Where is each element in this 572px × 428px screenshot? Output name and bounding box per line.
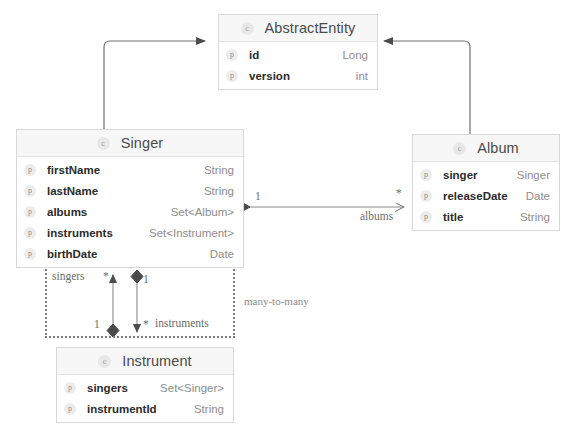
role-label-albums: albums <box>360 210 393 222</box>
attribute-name: id <box>249 49 259 61</box>
property-badge-icon: p <box>420 169 432 181</box>
attribute-type: Set<Singer> <box>150 382 224 394</box>
attribute-type: Set<Album> <box>161 206 234 218</box>
attribute-name: albums <box>47 206 87 218</box>
class-attributes-album: p singer Singer p releaseDate Date p tit… <box>413 162 559 230</box>
class-box-instrument[interactable]: c Instrument p singers Set<Singer> p ins… <box>56 347 234 423</box>
attribute-name: instrumentId <box>87 403 157 415</box>
attribute-name: birthDate <box>47 248 97 260</box>
property-badge-icon: p <box>24 185 36 197</box>
multiplicity-singers-one: 1 <box>94 318 100 330</box>
multiplicity-singer-albums-target: * <box>396 187 402 199</box>
attribute-row[interactable]: p singer Singer <box>413 164 559 185</box>
class-header-abstractentity: c AbstractEntity <box>219 15 377 42</box>
multiplicity-singer-albums-source: 1 <box>255 190 261 202</box>
property-badge-icon: p <box>226 49 238 61</box>
property-badge-icon: p <box>420 190 432 202</box>
attribute-row[interactable]: p firstName String <box>17 159 243 180</box>
attribute-row[interactable]: p lastName String <box>17 180 243 201</box>
attribute-type: String <box>184 403 224 415</box>
attribute-type: Date <box>200 248 234 260</box>
class-header-album: c Album <box>413 135 559 162</box>
class-attributes-instrument: p singers Set<Singer> p instrumentId Str… <box>57 375 233 422</box>
attribute-row[interactable]: p singers Set<Singer> <box>57 377 233 398</box>
attribute-row[interactable]: p instruments Set<Instrument> <box>17 222 243 243</box>
role-label-instruments: instruments <box>155 317 209 329</box>
class-badge-icon: c <box>97 137 110 150</box>
attribute-name: singer <box>443 169 478 181</box>
property-badge-icon: p <box>420 211 432 223</box>
property-badge-icon: p <box>24 248 36 260</box>
role-label-singers: singers <box>52 270 85 282</box>
attribute-row[interactable]: p albums Set<Album> <box>17 201 243 222</box>
class-name-abstractentity: AbstractEntity <box>265 20 356 36</box>
attribute-name: releaseDate <box>443 190 508 202</box>
class-attributes-singer: p firstName String p lastName String p a… <box>17 157 243 267</box>
attribute-row[interactable]: p id Long <box>219 44 377 65</box>
attribute-type: int <box>346 70 368 82</box>
class-header-singer: c Singer <box>17 130 243 157</box>
class-box-singer[interactable]: c Singer p firstName String p lastName S… <box>16 129 244 268</box>
attribute-type: String <box>194 185 234 197</box>
attribute-name: title <box>443 211 463 223</box>
edge-album-extends-abstractentity <box>384 41 470 134</box>
class-badge-icon: c <box>453 142 466 155</box>
attribute-type: String <box>194 164 234 176</box>
uml-diagram-canvas: c AbstractEntity p id Long p version int… <box>0 0 572 428</box>
attribute-row[interactable]: p instrumentId String <box>57 398 233 419</box>
property-badge-icon: p <box>24 227 36 239</box>
class-name-instrument: Instrument <box>122 353 192 369</box>
multiplicity-singers-star: * <box>103 270 109 282</box>
class-name-album: Album <box>477 140 519 156</box>
property-badge-icon: p <box>226 70 238 82</box>
attribute-row[interactable]: p title String <box>413 206 559 227</box>
property-badge-icon: p <box>24 206 36 218</box>
property-badge-icon: p <box>64 403 76 415</box>
class-badge-icon: c <box>98 355 111 368</box>
property-badge-icon: p <box>64 382 76 394</box>
attribute-row[interactable]: p version int <box>219 65 377 86</box>
attribute-name: instruments <box>47 227 113 239</box>
class-attributes-abstractentity: p id Long p version int <box>219 42 377 89</box>
class-name-singer: Singer <box>121 135 164 151</box>
attribute-name: lastName <box>47 185 98 197</box>
attribute-name: firstName <box>47 164 100 176</box>
attribute-row[interactable]: p birthDate Date <box>17 243 243 264</box>
class-box-album[interactable]: c Album p singer Singer p releaseDate Da… <box>412 134 560 231</box>
attribute-type: Date <box>516 190 550 202</box>
attribute-name: version <box>249 70 290 82</box>
attribute-type: String <box>510 211 550 223</box>
class-box-abstractentity[interactable]: c AbstractEntity p id Long p version int <box>218 14 378 90</box>
class-badge-icon: c <box>241 22 254 35</box>
multiplicity-instruments-one: 1 <box>143 273 149 285</box>
attribute-row[interactable]: p releaseDate Date <box>413 185 559 206</box>
note-many-to-many: many-to-many <box>244 295 309 307</box>
attribute-type: Long <box>332 49 368 61</box>
multiplicity-instruments-star: * <box>143 318 149 330</box>
attribute-type: Singer <box>507 169 550 181</box>
attribute-name: singers <box>87 382 128 394</box>
class-header-instrument: c Instrument <box>57 348 233 375</box>
edge-singer-extends-abstractentity <box>104 41 205 133</box>
property-badge-icon: p <box>24 164 36 176</box>
attribute-type: Set<Instrument> <box>139 227 234 239</box>
